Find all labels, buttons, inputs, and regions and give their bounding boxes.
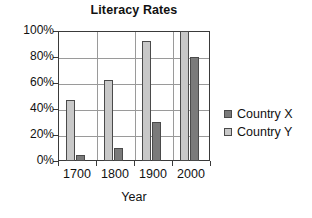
x-axis-tick xyxy=(172,161,173,166)
y-axis-tick-label: 80% xyxy=(8,49,54,63)
gridline-category-separator xyxy=(173,32,174,160)
legend-label: Country X xyxy=(237,107,293,121)
chart-legend: Country XCountry Y xyxy=(224,105,293,141)
bar-country-x-1800 xyxy=(114,148,123,161)
legend-swatch-country-y xyxy=(224,128,232,136)
literacy-rates-chart: Literacy Rates 0%20%40%60%80%100% 170018… xyxy=(0,0,312,218)
x-axis-tick xyxy=(96,161,97,166)
legend-item: Country Y xyxy=(224,123,293,141)
y-axis-tick-label: 0% xyxy=(8,153,54,167)
bar-country-y-1900 xyxy=(142,41,151,161)
bar-country-y-2000 xyxy=(180,31,189,161)
bar-country-x-2000 xyxy=(190,57,199,161)
bar-country-y-1700 xyxy=(66,100,75,161)
bar-country-y-1800 xyxy=(104,80,113,161)
gridline-category-separator xyxy=(135,32,136,160)
x-axis-tick xyxy=(58,161,59,166)
legend-item: Country X xyxy=(224,105,293,123)
y-axis-tick-label: 100% xyxy=(8,23,54,37)
legend-swatch-country-x xyxy=(224,110,232,118)
legend-label: Country Y xyxy=(237,125,292,139)
x-axis-tick xyxy=(210,161,211,166)
x-axis-tick-label: 2000 xyxy=(168,167,214,181)
bar-country-x-1700 xyxy=(76,155,85,162)
bar-country-x-1900 xyxy=(152,122,161,161)
y-axis-tick-label: 40% xyxy=(8,101,54,115)
x-axis-title: Year xyxy=(58,190,210,204)
y-axis-tick-label: 20% xyxy=(8,127,54,141)
y-axis-tick-label: 60% xyxy=(8,75,54,89)
gridline-category-separator xyxy=(97,32,98,160)
chart-title: Literacy Rates xyxy=(58,3,210,17)
x-axis-tick xyxy=(134,161,135,166)
